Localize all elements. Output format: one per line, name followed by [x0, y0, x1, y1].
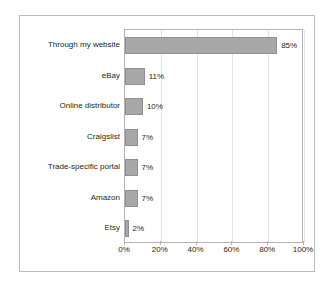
bar-value-label: 10%: [143, 98, 163, 115]
category-label: Trade-specific portal: [20, 158, 120, 175]
chart-figure: Through my websiteeBayOnline distributor…: [19, 15, 315, 272]
axis-tick-label: 100%: [293, 245, 313, 254]
bar-value-label: 7%: [138, 159, 154, 176]
category-axis-labels: Through my websiteeBayOnline distributor…: [20, 29, 120, 243]
value-axis-labels: 0%20%40%60%80%100%: [124, 245, 303, 259]
bar-value-label: 85%: [277, 37, 297, 54]
bar[interactable]: [125, 190, 138, 207]
bar-value-label: 11%: [145, 68, 164, 85]
bar-value-label: 7%: [138, 129, 154, 146]
bar[interactable]: [125, 68, 145, 85]
axis-tick-label: 60%: [223, 245, 239, 254]
bar[interactable]: [125, 129, 138, 146]
bar-row: 85%: [125, 30, 302, 61]
category-label: Through my website: [20, 36, 120, 53]
bar-value-label: 2%: [129, 220, 145, 237]
category-label: Amazon: [20, 189, 120, 206]
gridline: [304, 30, 305, 242]
bar-row: 10%: [125, 91, 302, 122]
bar-value-label: 7%: [138, 190, 154, 207]
plot-area: 85%11%10%7%7%7%2%: [124, 29, 303, 243]
axis-tick-label: 20%: [152, 245, 168, 254]
bar-row: 7%: [125, 122, 302, 153]
category-label: Craigslist: [20, 128, 120, 145]
bar[interactable]: [125, 159, 138, 176]
bar-row: 7%: [125, 152, 302, 183]
bar[interactable]: [125, 37, 277, 54]
bar-row: 11%: [125, 61, 302, 92]
bar[interactable]: [125, 98, 143, 115]
category-label: Etsy: [20, 219, 120, 236]
category-label: eBay: [20, 67, 120, 84]
bar-row: 7%: [125, 183, 302, 214]
category-label: Online distributor: [20, 97, 120, 114]
axis-tick-label: 0%: [118, 245, 130, 254]
axis-tick-label: 80%: [259, 245, 275, 254]
bar-row: 2%: [125, 213, 302, 244]
axis-tick-label: 40%: [188, 245, 204, 254]
